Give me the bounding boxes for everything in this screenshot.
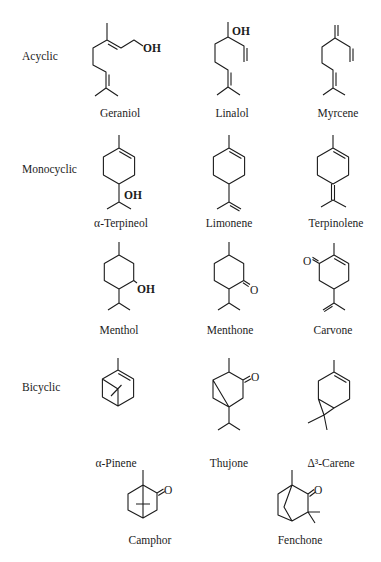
compound-name: Fenchone <box>278 534 323 546</box>
structure-thujone: O Thujone <box>210 358 259 470</box>
atom-label-o: O <box>303 255 311 267</box>
double-bond-lines <box>231 48 247 86</box>
compound-name: Thujone <box>210 457 248 470</box>
category-label-bicyclic: Bicyclic <box>22 381 60 394</box>
double-bond-lines <box>108 44 118 86</box>
structure-menthone: O Menthone <box>207 242 259 336</box>
atom-label-oh: OH <box>124 189 142 201</box>
compound-name: Myrcene <box>318 107 359 120</box>
category-label-monocyclic: Monocyclic <box>22 163 77 176</box>
bonds <box>313 243 349 310</box>
bonds <box>213 135 244 209</box>
compound-name: Menthol <box>100 324 139 336</box>
structure-myrcene: Myrcene <box>318 25 359 120</box>
structure-alpha-pinene: α-Pinene <box>95 358 136 469</box>
double-bond-lines <box>119 152 131 159</box>
structure-limonene: Limonene <box>206 135 253 229</box>
terpene-structures-figure: Acyclic Monocyclic Bicyclic OH Geraniol … <box>0 0 381 562</box>
bonds <box>213 358 250 430</box>
atom-label-o: O <box>164 484 172 496</box>
bonds <box>128 470 164 518</box>
bonds <box>278 470 320 523</box>
compound-name: α-Terpineol <box>94 217 148 230</box>
compound-name: Camphor <box>129 534 172 547</box>
double-bond-lines <box>229 152 241 211</box>
double-bond-lines <box>334 376 346 383</box>
structure-menthol: OH Menthol <box>100 242 155 336</box>
atom-label-oh: OH <box>232 25 250 37</box>
structure-alpha-terpineol: OH α-Terpineol <box>94 135 148 230</box>
structures-canvas: Acyclic Monocyclic Bicyclic OH Geraniol … <box>0 0 381 562</box>
atom-label-oh: OH <box>137 283 155 295</box>
compound-name: Terpinolene <box>309 217 364 230</box>
compound-name: Carvone <box>314 324 353 336</box>
bonds <box>93 23 143 96</box>
structure-terpinolene: Terpinolene <box>309 135 364 230</box>
bonds <box>317 135 348 207</box>
compound-name: α-Pinene <box>95 457 136 469</box>
atom-label-oh: OH <box>143 42 161 54</box>
structure-carvone: O Carvone <box>303 243 352 336</box>
structure-linalol: OH Linalol <box>215 22 250 119</box>
atom-label-o: O <box>250 284 258 296</box>
structure-delta3-carene: Δ³-Carene <box>307 360 354 469</box>
atom-label-o: O <box>314 484 322 496</box>
double-bond-lines <box>118 374 130 381</box>
structure-fenchone: O Fenchone <box>278 470 323 546</box>
compound-name: Limonene <box>206 217 253 229</box>
double-bond-lines <box>333 152 345 200</box>
compound-name: Geraniol <box>100 107 140 119</box>
compound-name: Linalol <box>215 107 248 119</box>
bonds <box>214 242 250 310</box>
bonds <box>104 242 137 310</box>
double-bond-lines <box>313 257 346 311</box>
compound-name: Menthone <box>207 324 254 336</box>
atom-label-o: O <box>251 371 259 383</box>
compound-name: Δ³-Carene <box>307 457 354 469</box>
bonds <box>308 360 350 430</box>
structure-geraniol: OH Geraniol <box>93 23 161 119</box>
category-label-acyclic: Acyclic <box>22 50 58 63</box>
structure-camphor: O Camphor <box>128 470 172 547</box>
bonds <box>102 358 133 406</box>
